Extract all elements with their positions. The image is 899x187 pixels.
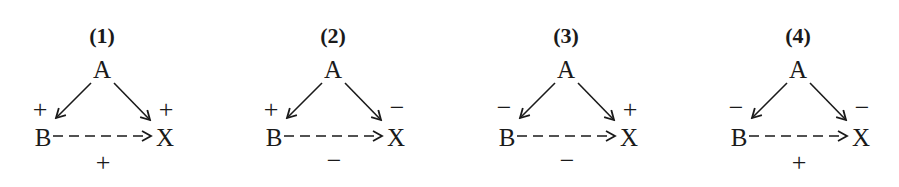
node-x: X [620, 125, 638, 150]
sign-a-x: − [855, 95, 870, 121]
sign-a-x: + [623, 97, 638, 123]
node-x: X [387, 125, 405, 150]
arrow-a-to-x [114, 83, 150, 120]
node-b: B [266, 125, 283, 150]
arrow-a-to-b [752, 83, 787, 118]
diagram-title: (3) [553, 25, 579, 47]
node-a: A [324, 57, 342, 82]
node-b: B [731, 125, 748, 150]
sign-b-x: − [560, 148, 575, 174]
diagram-title: (1) [89, 25, 115, 47]
diagram-title: (4) [785, 25, 811, 47]
diagram-1: (1) A B X + + + [0, 0, 220, 187]
sign-b-x: + [792, 150, 807, 176]
sign-a-x: − [390, 95, 405, 121]
sign-a-b: + [33, 97, 48, 123]
arrow-a-to-b [287, 83, 322, 118]
arrow-a-to-x [578, 83, 614, 120]
arrow-a-to-b [520, 83, 555, 118]
sign-a-x: + [159, 97, 174, 123]
sign-a-b: + [264, 97, 279, 123]
node-x: X [156, 125, 174, 150]
node-a: A [789, 57, 807, 82]
diagram-4: (4) A B X − − + [696, 0, 899, 187]
arrow-a-to-x [345, 83, 381, 120]
node-a: A [557, 57, 575, 82]
sign-a-b: − [729, 95, 744, 121]
sign-b-x: − [327, 148, 342, 174]
diagram-2: (2) A B X + − − [231, 0, 451, 187]
arrow-a-to-x [810, 83, 846, 120]
node-x: X [852, 125, 870, 150]
sign-a-b: − [497, 95, 512, 121]
node-b: B [35, 125, 52, 150]
diagram-title: (2) [320, 25, 346, 47]
sign-b-x: + [96, 150, 111, 176]
arrow-a-to-b [56, 83, 91, 118]
node-b: B [499, 125, 516, 150]
node-a: A [93, 57, 111, 82]
diagram-3: (3) A B X − + − [464, 0, 684, 187]
